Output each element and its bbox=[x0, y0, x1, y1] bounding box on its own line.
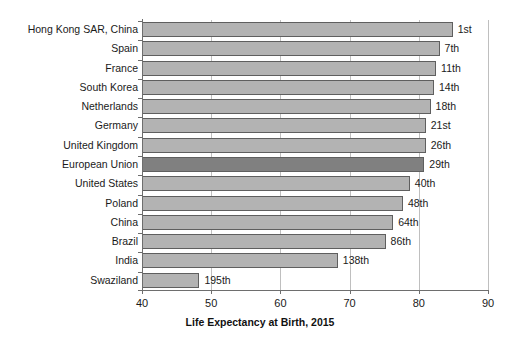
bar bbox=[142, 273, 199, 288]
bar-row: 29th bbox=[142, 155, 488, 174]
category-label: Swaziland bbox=[0, 271, 138, 290]
bar-rank-label: 1st bbox=[458, 21, 472, 37]
x-axis-tick-label-60: 60 bbox=[260, 296, 300, 310]
y-axis-tick bbox=[138, 156, 142, 157]
category-label: Hong Kong SAR, China bbox=[0, 20, 138, 39]
bar bbox=[142, 253, 338, 268]
y-axis-tick bbox=[138, 233, 142, 234]
bar-row: 1st bbox=[142, 20, 488, 39]
x-axis-line bbox=[142, 290, 489, 291]
bar-row: 86th bbox=[142, 232, 488, 251]
bar-rank-label: 26th bbox=[431, 137, 451, 153]
bar-rank-label: 7th bbox=[445, 40, 460, 56]
x-axis-tick-40 bbox=[142, 290, 143, 294]
bar-rank-label: 195th bbox=[204, 272, 230, 288]
bar bbox=[142, 196, 403, 211]
bar-rank-label: 11th bbox=[441, 60, 461, 76]
bar-row: 18th bbox=[142, 97, 488, 116]
bar-row: 195th bbox=[142, 271, 488, 290]
bar-row: 26th bbox=[142, 136, 488, 155]
plot-area: 1st7th11th14th18th21st26th29th40th48th64… bbox=[142, 20, 488, 290]
bar-row: 21st bbox=[142, 116, 488, 135]
y-axis-tick bbox=[138, 252, 142, 253]
bar-row: 138th bbox=[142, 251, 488, 270]
bar-rank-label: 48th bbox=[408, 195, 428, 211]
y-axis-line bbox=[142, 19, 143, 291]
bar-row: 64th bbox=[142, 213, 488, 232]
y-axis-tick bbox=[138, 40, 142, 41]
x-axis-tick-label-90: 90 bbox=[468, 296, 508, 310]
category-axis-labels: Hong Kong SAR, ChinaSpainFranceSouth Kor… bbox=[0, 20, 138, 290]
bar bbox=[142, 41, 440, 56]
bar-row: 11th bbox=[142, 59, 488, 78]
bar bbox=[142, 118, 426, 133]
category-label: Poland bbox=[0, 194, 138, 213]
bar-rank-label: 18th bbox=[436, 98, 456, 114]
bar bbox=[142, 176, 410, 191]
bar bbox=[142, 234, 386, 249]
category-label: Germany bbox=[0, 116, 138, 135]
bar bbox=[142, 80, 434, 95]
y-axis-tick bbox=[138, 137, 142, 138]
bar-rank-label: 29th bbox=[429, 156, 449, 172]
bar bbox=[142, 138, 426, 153]
bar-rank-label: 21st bbox=[431, 117, 451, 133]
bar-rank-label: 138th bbox=[343, 252, 369, 268]
bar-row: 40th bbox=[142, 174, 488, 193]
life-expectancy-bar-chart: 1st7th11th14th18th21st26th29th40th48th64… bbox=[0, 0, 520, 339]
x-axis-tick-label-50: 50 bbox=[191, 296, 231, 310]
category-label: China bbox=[0, 213, 138, 232]
y-axis-tick bbox=[138, 60, 142, 61]
category-label: United States bbox=[0, 174, 138, 193]
x-axis-title: Life Expectancy at Birth, 2015 bbox=[0, 316, 520, 328]
gridline-90 bbox=[488, 20, 489, 290]
bar-rank-label: 86th bbox=[391, 233, 411, 249]
bar-rank-label: 64th bbox=[398, 214, 418, 230]
bar-rank-label: 40th bbox=[415, 175, 435, 191]
x-axis-tick-label-80: 80 bbox=[399, 296, 439, 310]
category-label: Spain bbox=[0, 39, 138, 58]
bar bbox=[142, 22, 453, 37]
category-label: France bbox=[0, 59, 138, 78]
bar bbox=[142, 215, 393, 230]
bar bbox=[142, 157, 424, 172]
y-axis-tick bbox=[138, 175, 142, 176]
y-axis-tick bbox=[138, 79, 142, 80]
y-axis-tick bbox=[138, 195, 142, 196]
bar-rank-label: 14th bbox=[439, 79, 459, 95]
y-axis-tick bbox=[138, 98, 142, 99]
x-axis-tick-80 bbox=[419, 290, 420, 294]
x-axis-tick-90 bbox=[488, 290, 489, 294]
y-axis-tick bbox=[138, 117, 142, 118]
x-axis-tick-50 bbox=[211, 290, 212, 294]
category-label: European Union bbox=[0, 155, 138, 174]
category-label: Brazil bbox=[0, 232, 138, 251]
bar bbox=[142, 61, 436, 76]
x-axis-tick-label-70: 70 bbox=[330, 296, 370, 310]
bar-row: 48th bbox=[142, 194, 488, 213]
bar-rows: 1st7th11th14th18th21st26th29th40th48th64… bbox=[142, 20, 488, 290]
bar-row: 7th bbox=[142, 39, 488, 58]
x-axis-tick-70 bbox=[350, 290, 351, 294]
y-axis-tick bbox=[138, 272, 142, 273]
category-label: United Kingdom bbox=[0, 136, 138, 155]
bar-row: 14th bbox=[142, 78, 488, 97]
category-label: South Korea bbox=[0, 78, 138, 97]
x-axis-tick-label-40: 40 bbox=[122, 296, 162, 310]
x-axis-tick-60 bbox=[280, 290, 281, 294]
category-label: Netherlands bbox=[0, 97, 138, 116]
category-label: India bbox=[0, 251, 138, 270]
bar bbox=[142, 99, 431, 114]
y-axis-tick bbox=[138, 21, 142, 22]
y-axis-tick bbox=[138, 214, 142, 215]
